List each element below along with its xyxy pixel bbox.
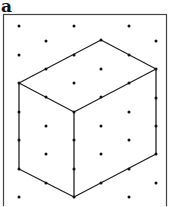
grid-dot bbox=[100, 153, 103, 156]
grid-dot bbox=[128, 54, 131, 57]
grid-dot bbox=[73, 111, 76, 114]
grid-dot bbox=[73, 54, 76, 57]
grid-dot bbox=[45, 40, 48, 43]
grid-dot bbox=[73, 196, 76, 199]
grid-dot bbox=[73, 82, 76, 85]
grid-dot bbox=[18, 54, 21, 57]
grid-dot bbox=[155, 40, 158, 43]
grid-dot bbox=[18, 82, 21, 85]
grid-dot bbox=[100, 96, 103, 99]
cuboid-edge bbox=[74, 154, 156, 197]
grid-dot bbox=[18, 196, 21, 199]
grid-dot bbox=[155, 125, 158, 128]
grid-dot bbox=[128, 111, 131, 114]
grid-dot bbox=[155, 182, 158, 185]
grid-dot bbox=[73, 168, 76, 171]
grid-dot bbox=[45, 182, 48, 185]
cuboid-edge bbox=[74, 69, 156, 112]
grid-dot bbox=[100, 182, 103, 185]
grid-dot bbox=[18, 168, 21, 171]
grid-dot bbox=[73, 25, 76, 28]
grid-dot bbox=[45, 68, 48, 71]
isometric-cuboid-diagram bbox=[0, 0, 170, 206]
grid-dot bbox=[128, 168, 131, 171]
grid-dot bbox=[100, 125, 103, 128]
grid-dot bbox=[155, 97, 158, 100]
grid-dot bbox=[128, 25, 131, 28]
cuboid-edge bbox=[19, 40, 101, 83]
grid-dot bbox=[45, 96, 48, 99]
frame bbox=[4, 15, 167, 207]
grid-dot bbox=[100, 68, 103, 71]
grid-dot bbox=[18, 139, 21, 142]
grid-dot bbox=[155, 153, 158, 156]
grid-dot bbox=[128, 139, 131, 142]
grid-dot bbox=[18, 111, 21, 114]
grid-dot bbox=[73, 139, 76, 142]
grid-dot bbox=[128, 196, 131, 199]
grid-dot bbox=[155, 68, 158, 71]
grid-dot bbox=[45, 153, 48, 156]
grid-dot bbox=[128, 82, 131, 85]
grid-dot bbox=[18, 25, 21, 28]
grid-dot bbox=[45, 125, 48, 128]
grid-dot bbox=[100, 39, 103, 42]
